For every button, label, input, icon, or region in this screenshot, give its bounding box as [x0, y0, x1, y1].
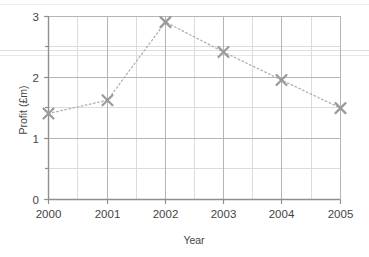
scan-artifact — [0, 5, 369, 56]
x-axis-title: Year — [183, 234, 205, 246]
chart-canvas: 3 2 1 0 2000 2001 2002 2003 2004 2005 Pr… — [0, 0, 369, 257]
y-tick-label-3: 3 — [33, 11, 39, 23]
x-tick-label-2003: 2003 — [211, 208, 237, 220]
x-tick-label-2005: 2005 — [328, 208, 354, 220]
x-tick-label-2002: 2002 — [153, 208, 179, 220]
profit-line-chart: 3 2 1 0 2000 2001 2002 2003 2004 2005 Pr… — [0, 0, 369, 257]
y-tick-label-1: 1 — [33, 133, 39, 145]
x-tick-label-2001: 2001 — [95, 208, 121, 220]
y-tick-label-0: 0 — [33, 194, 39, 206]
y-tick-label-2: 2 — [33, 72, 39, 84]
y-axis-title: Profit (£m) — [17, 85, 29, 134]
x-tick-label-2004: 2004 — [269, 208, 295, 220]
x-tick-label-2000: 2000 — [36, 208, 62, 220]
